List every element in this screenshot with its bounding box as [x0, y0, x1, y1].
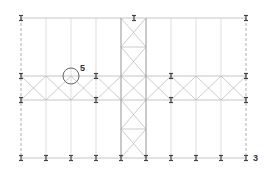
detail-reference-label: 5: [80, 64, 85, 73]
grid-reference-label: 3: [253, 154, 258, 163]
structural-plan: 5 3: [0, 0, 264, 169]
framing-diagram: [0, 0, 264, 169]
